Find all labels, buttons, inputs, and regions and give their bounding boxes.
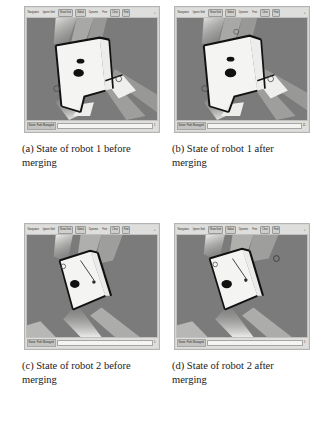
status-label: Stone: Path Managed <box>177 122 206 130</box>
subfigure-b: Navigation Ignore Grid Show Grid Global … <box>170 6 313 170</box>
status-field[interactable] <box>57 123 153 129</box>
toolbar-button-show-grid[interactable]: Show Grid <box>208 226 223 234</box>
toolbar-button-dynamic[interactable]: Dynamic <box>238 10 249 16</box>
toolbar-button-free[interactable]: Free <box>101 10 108 16</box>
toolbar-button-free[interactable]: Free <box>101 227 108 233</box>
obstacle-blob <box>221 280 232 288</box>
toolbar-overflow-icon[interactable]: » <box>304 11 307 15</box>
obstacle-blob <box>226 57 234 62</box>
toolbar-button-global[interactable]: Global <box>75 9 86 17</box>
app-window-b: Navigation Ignore Grid Show Grid Global … <box>174 6 310 133</box>
toolbar-overflow-icon[interactable]: » <box>304 228 307 232</box>
toolbar-button-show-grid[interactable]: Show Grid <box>208 9 223 17</box>
obstacle-blob <box>73 69 84 77</box>
status-bar-a: Stone: Path Managed 1 <box>26 121 158 131</box>
subfigure-c: Navigation Ignore Grid Show Grid Global … <box>20 223 163 387</box>
app-window-c: Navigation Ignore Grid Show Grid Global … <box>24 223 160 350</box>
toolbar-button-free[interactable]: Free <box>251 10 258 16</box>
status-field[interactable] <box>57 340 153 346</box>
subfigure-a: Navigation Ignore Grid Show Grid Global … <box>20 6 163 170</box>
toolbar-button-free[interactable]: Free <box>251 227 258 233</box>
status-label: Stone: Path Managed <box>27 339 56 347</box>
status-field[interactable] <box>207 340 303 346</box>
occupancy-map-b <box>177 18 307 120</box>
map-canvas-b[interactable] <box>176 17 308 121</box>
status-corner-indicator: 1 <box>304 340 306 346</box>
toolbar-overflow-icon[interactable]: » <box>154 11 157 15</box>
toolbar-button-global[interactable]: Global <box>75 226 86 234</box>
app-window-d: Navigation Ignore Grid Show Grid Global … <box>174 223 310 350</box>
map-canvas-c[interactable] <box>26 234 158 338</box>
subfigure-d: Navigation Ignore Grid Show Grid Global … <box>170 223 313 387</box>
toolbar-button-navigation[interactable]: Navigation <box>27 10 40 16</box>
status-label: Stone: Path Managed <box>177 339 206 347</box>
subfigure-caption-c: (c) State of robot 2 before merging <box>22 359 160 387</box>
status-field[interactable] <box>207 123 302 129</box>
toolbar-button-clear[interactable]: Clear <box>110 226 120 234</box>
toolbar-button-navigation[interactable]: Navigation <box>177 227 190 233</box>
status-corner-indicator: 11 <box>303 123 307 129</box>
toolbar-button-clear[interactable]: Clear <box>260 9 270 17</box>
toolbar-button-navigation[interactable]: Navigation <box>27 227 40 233</box>
toolbar-c: Navigation Ignore Grid Show Grid Global … <box>26 225 158 234</box>
map-canvas-a[interactable] <box>26 17 158 121</box>
toolbar-button-clear[interactable]: Clear <box>260 226 270 234</box>
obstacle-blob <box>224 69 235 78</box>
toolbar-button-show-grid[interactable]: Show Grid <box>58 226 73 234</box>
figure-grid: Navigation Ignore Grid Show Grid Global … <box>0 0 331 433</box>
toolbar-overflow-icon[interactable]: » <box>154 228 157 232</box>
subfigure-caption-d: (d) State of robot 2 after merging <box>172 359 310 387</box>
toolbar-button-find[interactable]: Find <box>122 226 131 234</box>
status-bar-d: Stone: Path Managed 1 <box>176 338 308 348</box>
toolbar-button-dynamic[interactable]: Dynamic <box>88 227 99 233</box>
toolbar-button-ignore-grid[interactable]: Ignore Grid <box>192 227 206 233</box>
status-corner-indicator: 1 <box>154 340 156 346</box>
occupancy-map-d <box>177 235 307 337</box>
toolbar-button-ignore-grid[interactable]: Ignore Grid <box>42 10 56 16</box>
toolbar-button-find[interactable]: Find <box>122 9 131 17</box>
obstacle-blob <box>70 280 80 288</box>
toolbar-button-dynamic[interactable]: Dynamic <box>238 227 249 233</box>
toolbar-button-find[interactable]: Find <box>272 226 281 234</box>
toolbar-button-ignore-grid[interactable]: Ignore Grid <box>42 227 56 233</box>
status-corner-indicator: 1 <box>154 123 156 129</box>
toolbar-b: Navigation Ignore Grid Show Grid Global … <box>176 8 308 17</box>
toolbar-button-dynamic[interactable]: Dynamic <box>88 10 99 16</box>
app-window-a: Navigation Ignore Grid Show Grid Global … <box>24 6 160 133</box>
map-canvas-d[interactable] <box>176 234 308 338</box>
occupancy-map-c <box>27 235 157 337</box>
status-bar-c: Stone: Path Managed 1 <box>26 338 158 348</box>
toolbar-button-global[interactable]: Global <box>225 226 236 234</box>
toolbar-button-clear[interactable]: Clear <box>110 9 120 17</box>
toolbar-button-global[interactable]: Global <box>225 9 236 17</box>
status-bar-b: Stone: Path Managed 11 <box>176 121 308 131</box>
status-label: Stone: Path Managed <box>27 122 56 130</box>
toolbar-button-find[interactable]: Find <box>272 9 281 17</box>
toolbar-d: Navigation Ignore Grid Show Grid Global … <box>176 225 308 234</box>
toolbar-button-ignore-grid[interactable]: Ignore Grid <box>192 10 206 16</box>
subfigure-caption-a: (a) State of robot 1 before merging <box>22 142 160 170</box>
toolbar-button-navigation[interactable]: Navigation <box>177 10 190 16</box>
subfigure-caption-b: (b) State of robot 1 after merging <box>172 142 310 170</box>
obstacle-blob <box>76 59 84 64</box>
toolbar-button-show-grid[interactable]: Show Grid <box>58 9 73 17</box>
toolbar-a: Navigation Ignore Grid Show Grid Global … <box>26 8 158 17</box>
occupancy-map-a <box>27 18 157 120</box>
